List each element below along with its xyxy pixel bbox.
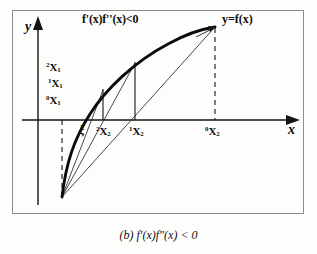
label-x2-superscript-2: 2X2 <box>96 126 111 138</box>
label-x1-superscript-1: 1X1 <box>48 78 63 90</box>
label-x2-1-sub: 2 <box>140 130 143 137</box>
label-x1-superscript-0: 0X1 <box>46 95 61 107</box>
label-x2-0-sub: 2 <box>216 130 219 137</box>
y-axis-arrowhead <box>33 16 43 30</box>
label-x1-0-sub: 1 <box>57 99 60 106</box>
figure-border <box>13 11 304 214</box>
label-x1-2-sub: 1 <box>57 66 60 73</box>
chord-line-0 <box>62 27 215 197</box>
label-x1-superscript-2: 2X1 <box>46 62 61 74</box>
label-x2-2-sub: 2 <box>107 130 110 137</box>
x-axis-label: x <box>288 123 295 137</box>
diagram-canvas <box>0 0 317 254</box>
label-xi: ξ <box>79 124 84 136</box>
y-axis-label: y <box>25 20 31 34</box>
curve-label: y=f(x) <box>222 13 253 25</box>
label-x1-1-sub: 1 <box>59 82 62 89</box>
figure-root: f'(x)f''(x)<0 y=f(x) y x 2X1 1X1 0X1 ξ 2… <box>0 0 317 254</box>
label-x2-superscript-1: 1X2 <box>129 126 144 138</box>
label-x2-superscript-0: 0X2 <box>205 126 220 138</box>
title-expression: f'(x)f''(x)<0 <box>82 13 138 25</box>
figure-caption: (b) f′(x)f″(x) < 0 <box>0 228 317 243</box>
